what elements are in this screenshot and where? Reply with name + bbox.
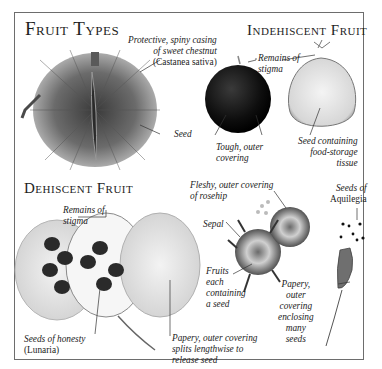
chestnut-casing-illustration (22, 50, 160, 170)
label-sepal: Sepal (203, 219, 224, 230)
label-remains-stigma-top: Remains of stigma (258, 53, 300, 75)
label-seed-food-storage: Seed containing food-storage tissue (298, 136, 358, 169)
honesty-pods-illustration (15, 213, 200, 350)
label-tough-covering: Tough, outer covering (216, 142, 263, 164)
label-remains-stigma-bottom: Remains of stigma (63, 205, 105, 227)
title-indehiscent-fruit: Indehiscent Fruit (247, 22, 367, 39)
label-chestnut-casing: Protective, spiny casing of sweet chestn… (128, 35, 217, 68)
label-fruits-each-seed: Fruits each containing a seed (206, 266, 246, 310)
label-honesty-seeds: Seeds of honesty (Lunaria) (24, 334, 85, 356)
label-papery-splits: Papery, outer covering splits lengthwise… (172, 333, 257, 366)
label-aquilegia-seeds: Seeds of Aquilegia (330, 183, 367, 205)
label-seed: Seed (174, 129, 192, 140)
title-dehiscent-fruit: Dehiscent Fruit (24, 180, 133, 197)
title-fruit-types: Fruit Types (25, 18, 119, 40)
label-papery-enclosing: Papery, outer covering enclosing many se… (278, 279, 314, 345)
label-rosehip-covering: Fleshy, outer covering of rosehip (190, 180, 273, 202)
aquilegia-illustration (326, 222, 365, 346)
